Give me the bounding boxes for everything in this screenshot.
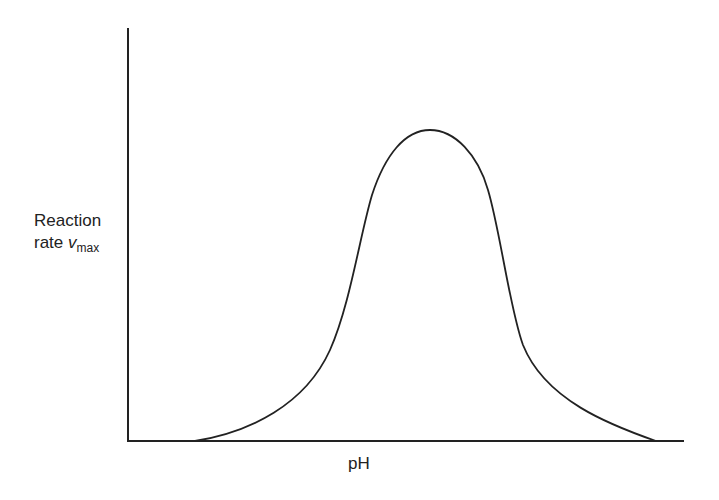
y-label-prefix: rate — [34, 233, 68, 252]
y-label-variable: v — [68, 233, 77, 252]
y-axis-label: Reaction rate vmax — [34, 210, 101, 259]
x-axis-label: pH — [348, 454, 370, 474]
chart-canvas — [0, 0, 719, 500]
y-label-line1: Reaction — [34, 210, 101, 232]
reaction-rate-curve — [195, 130, 656, 441]
y-label-subscript: max — [77, 241, 100, 255]
y-label-line2: rate vmax — [34, 232, 101, 259]
